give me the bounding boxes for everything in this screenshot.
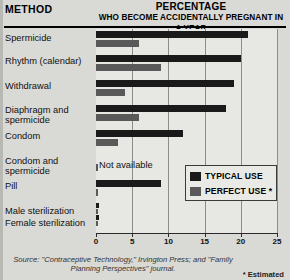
legend-label-perfect: PERFECT USE *: [205, 186, 272, 196]
source-note: Source: "Contraceptive Technology," Irvi…: [8, 255, 238, 273]
bar-typical-0: [96, 31, 248, 38]
x-tick-label-10: 10: [164, 237, 173, 246]
bar-typical-1: [96, 55, 241, 62]
bar-typical-6: [96, 180, 161, 187]
bar-perfect-5: [96, 164, 98, 171]
x-tick-label-0: 0: [94, 237, 98, 246]
x-tick-label-20: 20: [236, 237, 245, 246]
bar-perfect-0: [96, 40, 139, 47]
chart-header: METHOD PERCENTAGE WHO BECOME ACCIDENTALL…: [0, 0, 290, 27]
not-available-annotation: Not available: [99, 160, 153, 170]
x-axis-line: [96, 233, 278, 234]
x-tick-label-25: 25: [273, 237, 282, 246]
legend-label-typical: TYPICAL USE: [205, 171, 263, 181]
x-tick-label-5: 5: [130, 237, 134, 246]
row-label-female-sterilization: Female sterilization: [5, 218, 95, 228]
legend-swatch-typical-icon: [190, 172, 201, 181]
page-left-edge: [0, 0, 3, 280]
bar-typical-8: [96, 215, 99, 220]
chart-page: METHOD PERCENTAGE WHO BECOME ACCIDENTALL…: [0, 0, 290, 280]
bar-perfect-1: [96, 64, 161, 71]
chart-legend: TYPICAL USE PERFECT USE *: [185, 165, 277, 201]
bar-perfect-2: [96, 89, 125, 96]
plot-area: [96, 29, 278, 233]
header-divider: [4, 26, 286, 28]
bar-typical-7: [96, 203, 99, 208]
row-label-condom-spermicide: Condom and spermicide: [5, 156, 95, 176]
estimated-footnote: * Estimated: [243, 270, 284, 279]
row-label-pill: Pill: [5, 181, 95, 191]
bar-typical-4: [96, 130, 183, 137]
row-label-condom: Condom: [5, 131, 95, 141]
bar-typical-3: [96, 105, 226, 112]
row-label-diaphragm: Diaphragm and spermicide: [5, 105, 95, 125]
row-label-withdrawal: Withdrawal: [5, 81, 95, 91]
bar-perfect-7: [96, 209, 98, 214]
legend-swatch-perfect-icon: [190, 187, 201, 196]
x-tick-label-15: 15: [200, 237, 209, 246]
row-label-male-sterilization: Male sterilization: [5, 206, 95, 216]
row-label-spermicide: Spermicide: [5, 33, 95, 43]
bar-perfect-3: [96, 114, 139, 121]
method-column-header: METHOD: [5, 3, 52, 15]
bar-perfect-8: [96, 221, 98, 226]
bar-perfect-4: [96, 139, 118, 146]
percentage-title: PERCENTAGE: [156, 1, 227, 12]
bar-perfect-6: [96, 189, 98, 196]
bar-typical-2: [96, 80, 234, 87]
row-label-rhythm: Rhythm (calendar): [5, 56, 95, 66]
gridline-20: [241, 29, 242, 233]
gridline-25: [277, 29, 278, 233]
